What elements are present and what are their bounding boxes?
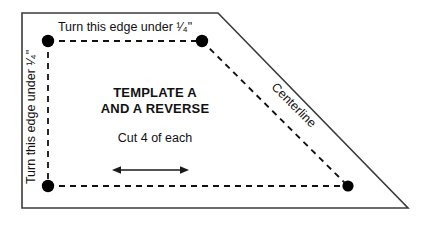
template-name-line2: AND A REVERSE — [101, 101, 210, 116]
corner-dot-bottom-right — [342, 180, 353, 191]
template-name-line1: TEMPLATE A — [113, 85, 197, 100]
top-edge-label: Turn this edge under ¹⁄₄" — [58, 20, 192, 34]
template-diagram: Turn this edge under ¹⁄₄" Turn this edge… — [0, 0, 430, 225]
cut-instruction-label: Cut 4 of each — [118, 131, 192, 145]
left-edge-label: Turn this edge under ¹⁄₄" — [24, 50, 38, 184]
diagram-canvas: Turn this edge under ¹⁄₄" Turn this edge… — [0, 0, 430, 225]
template-outline-shape — [22, 13, 408, 208]
corner-dot-top-left — [42, 35, 54, 47]
corner-dot-top-right — [196, 35, 208, 47]
corner-dot-bottom-left — [42, 180, 54, 192]
